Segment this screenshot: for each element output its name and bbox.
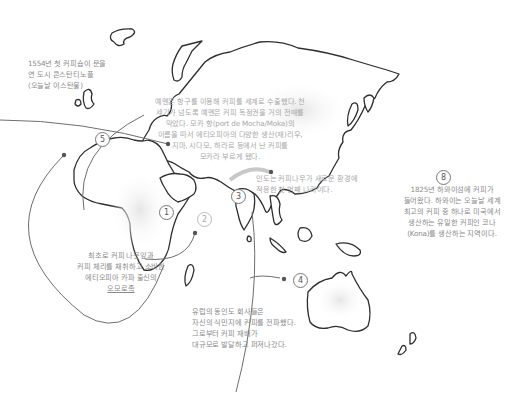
new-zealand-shape	[410, 333, 416, 344]
annotation-line: 최고의 커피 중 하나로 미국에서	[382, 206, 522, 217]
greenland-shape	[110, 29, 134, 46]
marker-1: 1	[159, 205, 174, 220]
annotation-line: 오모로족	[56, 283, 186, 294]
annotation-india: 인도는 커피나무가 새로운 환경에 적응한 첫 번째 나라이다.	[256, 173, 357, 195]
kamchatka-shape	[364, 95, 374, 112]
marker-8: 8	[436, 170, 451, 185]
annotation-line: (오늘날 이스탄불)	[28, 80, 106, 91]
annotation-hawaii: 1825년 하와이섬에 커피가 들어왔다. 하와이는 오늘날 세계 최고의 커피…	[382, 184, 522, 239]
annotation-line: 적응한 첫 번째 나라이다.	[256, 184, 357, 195]
annotation-line: 1554년 첫 커피숍이 문을	[28, 58, 106, 69]
annotation-line: 유럽의 동인도 회사들은	[192, 306, 296, 317]
annotation-line: 자신의 식민지에 커피를 전파했다.	[192, 317, 296, 328]
annotation-line: 예멘은 항구를 이용해 커피를 세계로 수출했다. 천	[140, 96, 320, 107]
sri-lanka-shape	[247, 236, 251, 242]
new-zealand-south-shape	[398, 346, 406, 355]
marker-2: 2	[197, 212, 212, 227]
marker-4: 4	[293, 273, 308, 288]
annotation-line: 인도는 커피나무가 새로운 환경에	[256, 173, 357, 184]
annotation-line: 세기가 넘도록 예멘은 커피 독점권을 거의 전매를	[140, 107, 320, 118]
marker-3: 3	[231, 189, 246, 204]
annotation-ethiopia: 최초로 커피 나뭇잎과 커피 체리를 채취하고 소비한 에티오피아 카파 출신의…	[56, 250, 186, 294]
annotation-line: 모카라 부르게 됐다.	[140, 151, 320, 162]
annotation-line: 들어왔다. 하와이는 오늘날 세계	[382, 195, 522, 206]
annotation-line: 1825년 하와이섬에 커피가	[382, 184, 522, 195]
annotation-line: 이름을 따서 에티오피아의 다양한 생산(재)리우,	[140, 129, 320, 140]
annotation-line: 최초로 커피 나뭇잎과	[56, 250, 186, 261]
annotation-line: 대규모로 발달하고 퍼져나갔다.	[192, 339, 296, 350]
annotation-constantinople: 1554년 첫 커피숍이 문을 연 도시 콘스탄티노플 (오늘날 이스탄불)	[28, 58, 106, 91]
annotation-dutch: 유럽의 동인도 회사들은 자신의 식민지에 커피를 전파했다. 그로부터 커피 …	[192, 306, 296, 350]
marker-5: 5	[95, 132, 110, 147]
sumatra-shape	[270, 238, 286, 253]
new-guinea-shape	[336, 243, 360, 256]
annotation-line: 그로부터 커피 재배가	[192, 328, 296, 339]
ireland-shape	[75, 100, 81, 107]
annotation-line: 지마, 시다모, 하라르 등에서 난 커피를	[140, 140, 320, 151]
annotation-line: 에티오피아 카파 출신의	[56, 272, 186, 283]
annotation-line: 막았다. 모카 항(port de Mocha/Moka)의	[140, 118, 320, 129]
borneo-shape	[298, 228, 312, 242]
annotation-yemen: 예멘은 항구를 이용해 커피를 세계로 수출했다. 천 세기가 넘도록 예멘은 …	[140, 96, 320, 162]
indochina-shape	[270, 196, 282, 225]
annotation-line: (Kona)를 생산하는 지역이다.	[382, 228, 522, 239]
route-indonesia	[236, 212, 255, 392]
annotation-line: 커피 체리를 채취하고 소비한	[56, 261, 186, 272]
britain-shape	[83, 89, 94, 108]
annotation-line: 연 도시 콘스탄티노플	[28, 69, 106, 80]
madagascar-shape	[185, 265, 194, 286]
annotation-line: 생산하는 유일한 커피인 코나	[382, 217, 522, 228]
